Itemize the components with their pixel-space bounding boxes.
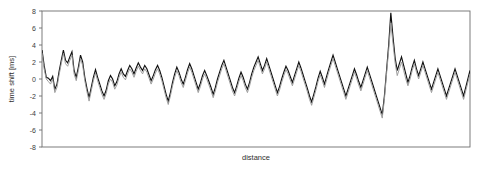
y-tick-label: 6	[32, 25, 36, 32]
y-tick-label: -2	[30, 93, 36, 100]
y-tick-label: 2	[32, 59, 36, 66]
y-tick-label: 0	[32, 76, 36, 83]
chart-figure: 86420-2-4-6-8 time shift [ms] distance	[0, 0, 488, 170]
y-tick-label: 8	[32, 8, 36, 15]
y-tick-label: -8	[30, 144, 36, 151]
y-tick-label: -6	[30, 127, 36, 134]
y-axis-tick-labels: 86420-2-4-6-8	[30, 8, 36, 151]
y-axis-label: time shift [ms]	[7, 56, 16, 102]
line-chart-plot: 86420-2-4-6-8 time shift [ms] distance	[0, 0, 488, 170]
x-axis-label: distance	[242, 153, 270, 162]
y-tick-label: -4	[30, 110, 36, 117]
y-tick-label: 4	[32, 42, 36, 49]
